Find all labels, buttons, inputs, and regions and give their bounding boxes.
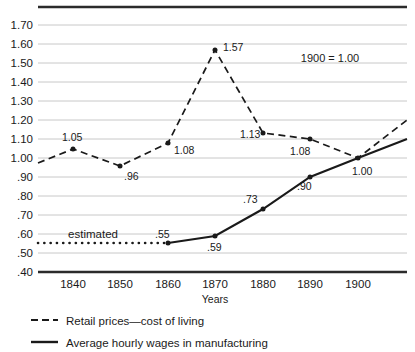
xtick-label: 1850 bbox=[107, 278, 133, 290]
ytick-label: 1.00 bbox=[11, 152, 33, 164]
xtick-label: 1880 bbox=[250, 278, 276, 290]
data-label: .73 bbox=[243, 193, 258, 205]
ytick-label: .60 bbox=[17, 228, 33, 240]
xtick-label: 1900 bbox=[345, 278, 371, 290]
ytick-label: .70 bbox=[17, 209, 33, 221]
data-point bbox=[71, 147, 76, 152]
legend-item-average-wages[interactable]: Average hourly wages in manufacturing bbox=[31, 337, 268, 349]
data-point bbox=[166, 241, 171, 246]
data-label: .59 bbox=[207, 241, 222, 253]
xtick-label: 1890 bbox=[297, 278, 323, 290]
data-point bbox=[118, 164, 123, 169]
chart-legend: Retail prices—cost of living Average hou… bbox=[31, 315, 268, 349]
data-point bbox=[308, 175, 313, 180]
ytick-label: 1.70 bbox=[11, 19, 33, 31]
data-label: 1.13 bbox=[240, 128, 261, 140]
estimated-annotation: estimated bbox=[68, 228, 118, 240]
ytick-label: .90 bbox=[17, 171, 33, 183]
data-label: 1.00 bbox=[352, 165, 373, 177]
data-point bbox=[308, 137, 313, 142]
ytick-label: 1.60 bbox=[11, 38, 33, 50]
wages-line bbox=[168, 139, 407, 243]
xtick-label: 1870 bbox=[202, 278, 228, 290]
ytick-label: 1.40 bbox=[11, 76, 33, 88]
data-point bbox=[213, 234, 218, 239]
ytick-label: 1.10 bbox=[11, 133, 33, 145]
ytick-label: 1.30 bbox=[11, 95, 33, 107]
ytick-label: 1.50 bbox=[11, 57, 33, 69]
ytick-label: 1.20 bbox=[11, 114, 33, 126]
data-point bbox=[166, 141, 171, 146]
data-point bbox=[261, 131, 266, 136]
retail-prices-line bbox=[38, 50, 407, 166]
data-label: 1.08 bbox=[290, 145, 311, 157]
xtick-label: 1840 bbox=[60, 278, 86, 290]
chart-container: 1.70 1.60 1.50 1.40 1.30 1.20 1.10 1.00 … bbox=[0, 0, 415, 352]
data-label: .55 bbox=[155, 228, 170, 240]
xtick-label: 1860 bbox=[155, 278, 181, 290]
x-axis-tick-labels: 1840 1850 1860 1870 1880 1890 1900 bbox=[60, 278, 371, 290]
ytick-label: .40 bbox=[17, 266, 33, 278]
chart-annotation: 1900 = 1.00 bbox=[301, 52, 359, 64]
legend-label: Retail prices—cost of living bbox=[66, 315, 204, 327]
data-label: .90 bbox=[297, 180, 312, 192]
ytick-label: .80 bbox=[17, 190, 33, 202]
y-axis-tick-labels: 1.70 1.60 1.50 1.40 1.30 1.20 1.10 1.00 … bbox=[11, 19, 33, 278]
x-axis-title: Years bbox=[202, 293, 228, 305]
ytick-label: .50 bbox=[17, 247, 33, 259]
data-label: 1.05 bbox=[62, 131, 83, 143]
data-label: 1.57 bbox=[223, 41, 244, 53]
data-point bbox=[261, 207, 266, 212]
data-label: 1.08 bbox=[174, 144, 195, 156]
legend-label: Average hourly wages in manufacturing bbox=[66, 337, 268, 349]
chart-canvas: 1.70 1.60 1.50 1.40 1.30 1.20 1.10 1.00 … bbox=[0, 0, 415, 352]
legend-item-retail-prices[interactable]: Retail prices—cost of living bbox=[31, 315, 204, 327]
data-point bbox=[213, 48, 218, 53]
data-label: .96 bbox=[124, 170, 139, 182]
